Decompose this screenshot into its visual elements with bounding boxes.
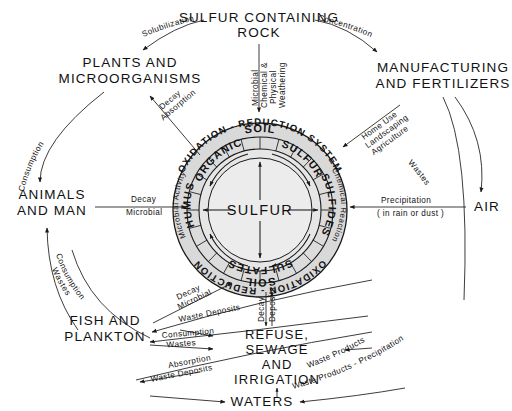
node-refuse-line1: REFUSE, xyxy=(245,327,309,342)
edge-label-precipitation-detail: ( in rain or dust ) xyxy=(377,209,444,218)
edge-right-into-waters xyxy=(300,388,405,402)
edge-label-weathering-physical: Physical xyxy=(269,70,278,104)
edge-label-microbial-animals: Microbial xyxy=(126,208,162,217)
node-animals-line1: ANIMALS xyxy=(19,187,86,202)
edge-label-precipitation: Precipitation xyxy=(381,196,431,205)
edge-label-deposits-vertical: Deposits xyxy=(268,287,277,322)
svg-text:SOIL: SOIL xyxy=(244,122,277,135)
edge-left-into-waters xyxy=(150,396,225,402)
svg-text:Solubilization: Solubilization xyxy=(141,14,196,39)
svg-text:Wastes: Wastes xyxy=(406,158,432,187)
edge-label-weathering-chemical: Chemical & xyxy=(260,62,269,108)
node-air-label: AIR xyxy=(474,199,500,214)
edge-label-solubilization: Solubilization xyxy=(141,14,196,39)
node-refuse-line2: SEWAGE xyxy=(245,342,308,357)
svg-text:Concentration: Concentration xyxy=(317,13,374,39)
node-manufacturing-line1: MANUFACTURING xyxy=(377,60,509,75)
node-plants-line2: MICROORGANISMS xyxy=(59,71,202,86)
node-animals-line2: AND MAN xyxy=(17,203,87,218)
node-manufacturing-line2: AND FERTILIZERS xyxy=(376,76,511,91)
edge-label-decay-vertical: Decay xyxy=(257,296,266,322)
sulfur-cycle-diagram: OXIDATION - REDUCTION SYSTEM OXIDATION -… xyxy=(0,0,512,411)
edge-plants-to-animals xyxy=(40,92,104,182)
center-sulfur-label: SULFUR xyxy=(227,202,293,218)
edge-label-decay-animals: Decay xyxy=(131,195,157,204)
node-fish-line1: FISH AND xyxy=(69,313,140,328)
edge-label-consumption-top: Consumption xyxy=(17,140,46,193)
edge-label-concentration: Concentration xyxy=(317,13,374,39)
edge-label-weathering-weathering: Weathering xyxy=(278,62,287,108)
node-plants-line1: PLANTS AND xyxy=(82,55,177,70)
edge-label-wastes-right: Wastes xyxy=(406,158,432,187)
svg-text:Consumption: Consumption xyxy=(17,140,46,193)
node-rock-line1: SULFUR CONTAINING xyxy=(179,10,339,25)
node-fish-line2: PLANKTON xyxy=(64,329,145,344)
edge-manufacturing-secondary-arc xyxy=(443,97,465,300)
edge-manufacturing-to-air xyxy=(455,97,482,192)
node-waters-label: WATERS xyxy=(231,394,294,409)
node-refuse-line3: AND xyxy=(262,357,293,372)
node-rock-line2: ROCK xyxy=(237,25,280,40)
edge-label-weathering-microbial: Microbial xyxy=(251,70,260,106)
ring-mid-top-label: SOIL xyxy=(244,122,277,135)
